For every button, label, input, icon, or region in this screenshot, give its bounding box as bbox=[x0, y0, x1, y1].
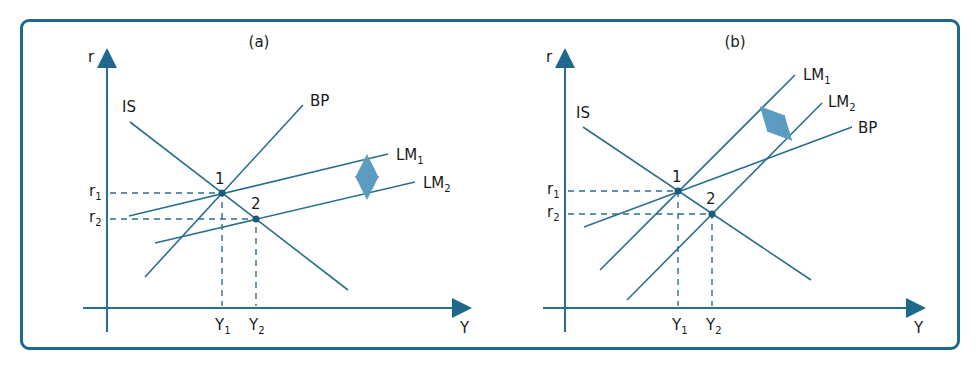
is-curve bbox=[583, 127, 811, 280]
islm-bp-diagrams: (a) r Y 1 2 IS BP LM1 LM2 r1 r2 Y1 Y2 (b… bbox=[0, 0, 979, 366]
lm2-label: LM2 bbox=[423, 174, 451, 194]
panel-a-title: (a) bbox=[249, 33, 270, 51]
equilibrium-point-1 bbox=[219, 190, 226, 197]
guide-2 bbox=[110, 219, 256, 306]
lm1-label: LM1 bbox=[803, 66, 831, 86]
shift-arrow-icon bbox=[768, 115, 784, 132]
point-1-label: 1 bbox=[672, 168, 682, 186]
lm2-curve bbox=[627, 103, 822, 300]
equilibrium-point-2 bbox=[253, 216, 260, 223]
guide-2 bbox=[568, 214, 712, 306]
bp-label: BP bbox=[858, 119, 877, 137]
r2-label: r2 bbox=[89, 208, 102, 228]
lm1-label: LM1 bbox=[396, 146, 424, 166]
bp-label: BP bbox=[310, 92, 329, 110]
panel-a: (a) r Y 1 2 IS BP LM1 LM2 r1 r2 Y1 Y2 bbox=[83, 33, 470, 337]
x-axis-label: Y bbox=[459, 319, 470, 337]
y-axis-label: r bbox=[546, 48, 553, 66]
panel-b: (b) r Y 1 2 IS LM1 LM2 BP r1 r2 Y1 Y2 bbox=[543, 33, 924, 337]
panel-b-title: (b) bbox=[724, 33, 745, 51]
y-axis-label: r bbox=[88, 48, 95, 66]
is-label: IS bbox=[576, 104, 590, 122]
y2-label: Y2 bbox=[705, 316, 722, 336]
x-axis-label: Y bbox=[913, 319, 924, 337]
y1-label: Y1 bbox=[671, 316, 688, 336]
y2-label: Y2 bbox=[248, 316, 265, 336]
lm1-curve bbox=[600, 75, 795, 270]
equilibrium-point-2 bbox=[709, 211, 716, 218]
r1-label: r1 bbox=[89, 182, 102, 202]
point-2-label: 2 bbox=[251, 195, 261, 213]
point-1-label: 1 bbox=[215, 170, 225, 188]
y1-label: Y1 bbox=[214, 316, 231, 336]
r1-label: r1 bbox=[547, 180, 560, 200]
lm2-label: LM2 bbox=[828, 93, 856, 113]
r2-label: r2 bbox=[547, 203, 560, 223]
point-2-label: 2 bbox=[706, 190, 716, 208]
lm2-curve bbox=[155, 182, 415, 243]
bp-curve bbox=[584, 127, 852, 227]
is-label: IS bbox=[122, 98, 136, 116]
guide-1 bbox=[110, 193, 222, 306]
equilibrium-point-1 bbox=[675, 188, 682, 195]
